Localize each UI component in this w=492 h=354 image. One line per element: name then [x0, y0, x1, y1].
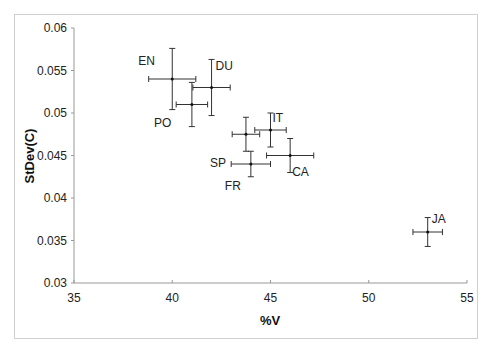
point-marker	[426, 231, 429, 234]
y-tick-label: 0.03	[44, 276, 68, 290]
point-label: FR	[225, 179, 241, 193]
point-label: JA	[432, 212, 446, 226]
point-marker	[190, 103, 193, 106]
x-axis-label: %V	[260, 313, 281, 328]
y-tick-label: 0.035	[37, 234, 67, 248]
data-point: PO	[154, 82, 208, 129]
data-point: SP	[210, 117, 260, 170]
x-tick-label: 50	[362, 291, 376, 305]
point-marker	[244, 133, 247, 136]
y-tick-label: 0.06	[44, 21, 68, 35]
point-label: EN	[138, 54, 155, 68]
y-tick-label: 0.055	[37, 64, 67, 78]
data-point: JA	[413, 212, 446, 246]
point-marker	[171, 78, 174, 81]
data-point: EN	[138, 48, 196, 109]
data-point: DU	[193, 59, 233, 116]
y-tick-label: 0.05	[44, 106, 68, 120]
axes: 35404550550.030.0350.040.0450.050.0550.0…	[37, 21, 474, 305]
data-point: IT	[255, 111, 286, 147]
point-label: PO	[154, 116, 171, 130]
point-label: CA	[292, 165, 309, 179]
y-tick-label: 0.04	[44, 191, 68, 205]
y-axis-label: StDev(C)	[22, 129, 37, 184]
data-point: CA	[267, 139, 314, 179]
x-tick-label: 40	[166, 291, 180, 305]
point-label: SP	[210, 156, 226, 170]
data-point: FR	[225, 151, 271, 193]
point-marker	[249, 163, 252, 166]
point-label: IT	[273, 111, 284, 125]
point-marker	[269, 129, 272, 132]
x-tick-label: 35	[67, 291, 81, 305]
x-tick-label: 45	[264, 291, 278, 305]
x-tick-label: 55	[460, 291, 474, 305]
data-points: ENPODUSPITFRCAJA	[138, 48, 445, 246]
y-tick-label: 0.045	[37, 149, 67, 163]
point-marker	[210, 86, 213, 89]
scatter-chart: 35404550550.030.0350.040.0450.050.0550.0…	[0, 0, 492, 354]
point-marker	[289, 154, 292, 157]
point-label: DU	[216, 59, 233, 73]
